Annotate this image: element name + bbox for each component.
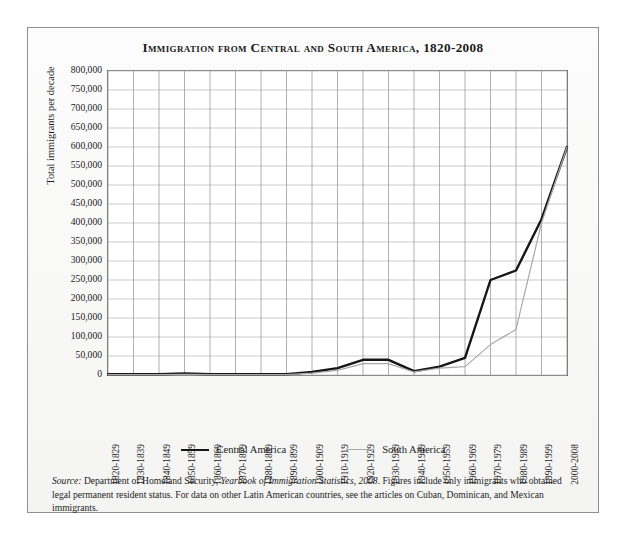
legend-label: South America xyxy=(382,444,445,455)
source-publication: Yearbook of Immigration Statistics, 2008 xyxy=(220,475,377,486)
y-tick-label: 200,000 xyxy=(40,293,102,303)
source-note: Source: Department of Homeland Security,… xyxy=(52,474,578,515)
y-tick-label: 650,000 xyxy=(40,122,102,132)
y-tick-label: 400,000 xyxy=(40,217,102,227)
y-tick-label: 50,000 xyxy=(40,350,102,360)
y-tick-label: 0 xyxy=(40,369,102,379)
figure-container: Immigration from Central and South Ameri… xyxy=(27,27,599,513)
y-tick-label: 150,000 xyxy=(40,312,102,322)
y-tick-label: 100,000 xyxy=(40,331,102,341)
legend-swatch-icon xyxy=(346,449,374,450)
legend-swatch-icon xyxy=(181,449,209,451)
y-tick-label: 800,000 xyxy=(40,65,102,75)
plot-area xyxy=(107,70,568,376)
chart-legend: Central AmericaSouth America xyxy=(28,444,598,455)
chart-title: Immigration from Central and South Ameri… xyxy=(28,40,598,56)
data-series-layer xyxy=(108,71,567,375)
source-text-1: Department of Homeland Security, xyxy=(81,475,220,486)
y-tick-label: 600,000 xyxy=(40,141,102,151)
source-label: Source: xyxy=(52,475,81,486)
y-tick-label: 350,000 xyxy=(40,236,102,246)
y-tick-label: 250,000 xyxy=(40,274,102,284)
y-tick-label: 450,000 xyxy=(40,198,102,208)
source-divider xyxy=(28,466,598,467)
y-tick-label: 700,000 xyxy=(40,103,102,113)
y-axis-tick-labels: 050,000100,000150,000200,000250,000300,0… xyxy=(36,70,102,374)
legend-item-2: South America xyxy=(346,444,445,455)
legend-label: Central America xyxy=(217,444,287,455)
x-axis-tick-labels: 1820-18291830-18391840-18491850-18591860… xyxy=(107,380,566,444)
y-tick-label: 500,000 xyxy=(40,179,102,189)
series-line-2 xyxy=(108,147,567,375)
y-tick-label: 750,000 xyxy=(40,84,102,94)
legend-item-1: Central America xyxy=(181,444,287,455)
y-tick-label: 300,000 xyxy=(40,255,102,265)
y-tick-label: 550,000 xyxy=(40,160,102,170)
